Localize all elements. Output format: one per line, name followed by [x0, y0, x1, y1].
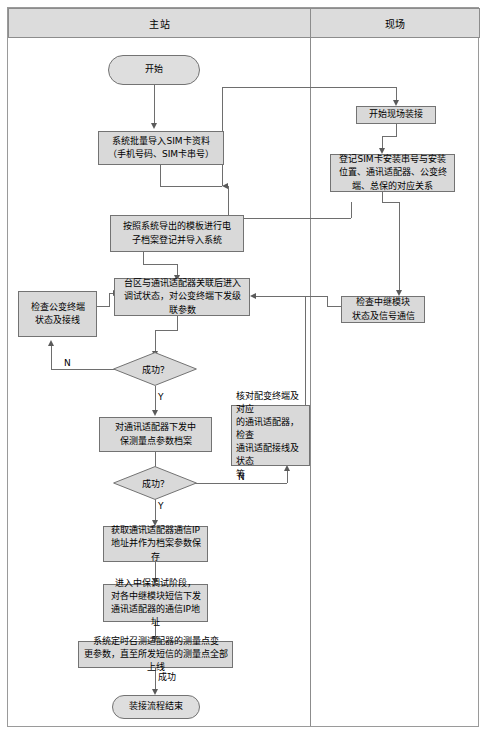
edge-fieldstart-jog: [382, 136, 397, 137]
node-decision-success-1[interactable]: 成功？: [113, 352, 197, 386]
edge-verify-to-assoc: [256, 296, 305, 297]
edge-import-right: [160, 186, 222, 187]
node-assoc-debug[interactable]: 台区与通讯适配器关联后进入 调试状态，对公变终端下发级 联参数: [114, 278, 250, 316]
node-get-ip[interactable]: 获取通讯适配器通信IP 地址并作为档案参数保存: [103, 526, 208, 562]
edge-register-to-archive-v2: [228, 186, 229, 218]
edge-label-d1-no: N: [64, 358, 71, 368]
node-end[interactable]: 装接流程结束: [112, 695, 200, 719]
node-archive-import[interactable]: 按照系统导出的模板进行电 子档案登记并导入系统: [110, 215, 244, 252]
edge-register-jog: [382, 202, 399, 203]
edge-archive-down1: [143, 252, 144, 264]
arrowhead-send-params: [152, 410, 158, 416]
lane-header-master-label: 主站: [149, 16, 170, 31]
node-field-start[interactable]: 开始现场装接: [356, 106, 436, 124]
edge-assoc-down2: [155, 330, 156, 352]
decision-2-label: 成功？: [113, 466, 197, 500]
edge-checkterm-h1: [97, 306, 109, 307]
node-register-sim[interactable]: 登记SIM卡安装串号与安装 位置、通讯适配器、公变终 端、总保的对应关系: [330, 154, 455, 192]
edge-start-to-fieldstart-v: [396, 87, 397, 101]
node-send-params[interactable]: 对通讯适配器下发中 保测量点参数档案: [99, 417, 212, 452]
edge-label-d2-yes: Y: [158, 501, 164, 511]
edge-d1-yes-v: [155, 386, 156, 411]
edge-register-down1: [382, 192, 383, 202]
edge-fieldstart-down1: [396, 124, 397, 136]
node-import-sim[interactable]: 系统批量导入SIM卡资料 （手机号码、SIM卡串号）: [98, 131, 224, 165]
edge-d1-no-v: [51, 345, 52, 369]
edge-checkterm-v: [109, 293, 110, 307]
edge-start-to-fieldstart-h: [222, 87, 396, 88]
arrowhead-check-terminal: [48, 340, 54, 346]
edge-assoc-jog: [155, 330, 178, 331]
edge-relay-left: [327, 306, 341, 307]
edge-verify-up: [305, 296, 306, 405]
edge-relay-to-assoc: [305, 296, 328, 297]
node-start[interactable]: 开始: [108, 55, 200, 85]
edge-import-down: [160, 165, 161, 186]
edge-relay-up: [327, 296, 328, 307]
edge-d2-no-h: [189, 483, 287, 484]
lane-header-field-label: 现场: [385, 16, 406, 31]
lane-header-field: 现场: [310, 8, 480, 38]
node-check-relay[interactable]: 检查中继模块 状态及信号通信: [341, 296, 425, 323]
node-verify-adapter[interactable]: 核对配变终端及对应 的通讯适配器，检查 通讯适配接线及状态 等: [231, 405, 310, 466]
node-check-terminal[interactable]: 检查公变终端 状态及接线: [18, 291, 97, 337]
node-relay-debug[interactable]: 进入中保调试阶段， 对各中继模块短信下发 通讯适配器的通信IP地址: [103, 584, 208, 622]
edge-start-to-import: [154, 85, 155, 124]
edge-label-d1-yes: Y: [158, 392, 164, 402]
edge-d1-no-h: [51, 369, 121, 370]
edge-register-to-archive-h: [228, 218, 351, 219]
edge-assoc-down1: [177, 316, 178, 330]
arrowhead-import-sim: [151, 123, 157, 129]
edge-archive-jog: [143, 264, 177, 265]
edge-register-to-archive-v: [351, 202, 352, 218]
node-decision-success-2[interactable]: 成功？: [113, 466, 197, 500]
decision-1-label: 成功？: [113, 352, 197, 386]
node-poll-points[interactable]: 系统定时召测适配器的测量点变 更参数，直至所发短信的测量点全部上线: [78, 641, 233, 668]
flowchart-canvas: 主站 现场 N Y: [0, 0, 489, 736]
lane-divider: [310, 38, 311, 726]
edge-register-to-relay: [399, 202, 400, 291]
lane-header-master: 主站: [8, 8, 311, 38]
arrowhead-assoc-from-right: [250, 293, 256, 299]
